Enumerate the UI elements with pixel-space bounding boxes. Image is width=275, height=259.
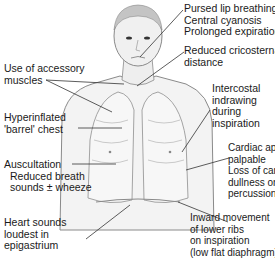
- label-intercostal: Intercostal indrawing during inspiration: [212, 83, 260, 129]
- label-lower-ribs: Inward movement of lower ribs on inspira…: [190, 212, 275, 258]
- label-face-signs: Pursed lip breathing Central cyanosis Pr…: [184, 3, 275, 38]
- label-auscultation: Auscultation Reduced breath sounds ± whe…: [4, 159, 92, 194]
- label-cricosternal: Reduced cricosternal distance: [184, 45, 275, 68]
- label-barrel-chest: Hyperinflated 'barrel' chest: [4, 112, 66, 135]
- label-accessory-muscles: Use of accessory muscles: [4, 63, 85, 86]
- label-cardiac: Cardiac apex not palpable Loss of cardia…: [228, 142, 275, 200]
- label-heart-sounds: Heart sounds loudest in epigastrium: [4, 217, 66, 252]
